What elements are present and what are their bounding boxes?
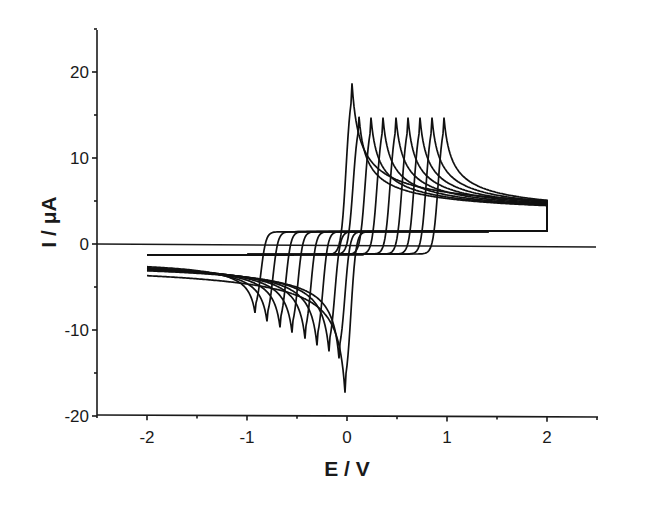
x-tick-label: -1 xyxy=(239,428,254,447)
x-tick-label: 1 xyxy=(442,428,451,447)
y-axis-title: I / μA xyxy=(37,196,60,247)
cv-curve xyxy=(147,83,547,393)
x-tick-label: -2 xyxy=(139,428,154,447)
x-tick-label: 2 xyxy=(542,428,551,447)
x-tick-label: 0 xyxy=(342,428,351,447)
y-tick-label: -10 xyxy=(64,321,89,340)
y-tick-label: 10 xyxy=(70,149,89,168)
axes xyxy=(92,29,598,422)
data-curves xyxy=(147,83,547,393)
y-tick-label: 0 xyxy=(80,235,89,254)
x-axis-title: E / V xyxy=(324,457,370,480)
y-tick-label: 20 xyxy=(70,63,89,82)
y-tick-label: -20 xyxy=(64,407,89,426)
cv-chart: -20-1001020-2-1012 E / V I / μA xyxy=(0,0,646,505)
